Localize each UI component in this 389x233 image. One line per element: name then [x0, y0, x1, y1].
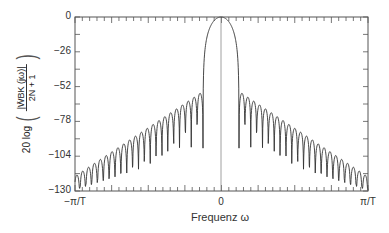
- y-label-numerator: |W̄BK (jω)|: [16, 65, 27, 112]
- y-label-fraction: |W̄BK (jω)| 2N + 1: [16, 65, 37, 112]
- x-tick-label: π/T: [348, 196, 388, 207]
- x-tick-label: −π/T: [55, 196, 95, 207]
- y-label-prefix: 20 log: [21, 126, 32, 153]
- y-label-denominator: 2N + 1: [27, 74, 37, 101]
- left-paren: (: [13, 116, 39, 121]
- spectrum-curve: [75, 17, 368, 190]
- x-axis-label: Frequenz ω: [150, 211, 290, 223]
- x-tick-label: 0: [201, 196, 241, 207]
- y-axis-label: 20 log ( |W̄BK (jω)| 2N + 1 ): [6, 18, 46, 188]
- right-paren: ): [13, 55, 39, 60]
- plot-frame: [75, 17, 368, 191]
- axis-ticks: [75, 17, 368, 191]
